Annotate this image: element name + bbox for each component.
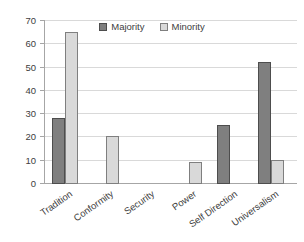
bar-majority-tradition — [52, 118, 65, 184]
y-axis-line — [44, 20, 45, 183]
bar-minority-power — [189, 162, 202, 184]
bar-majority-self-direction — [217, 125, 230, 184]
legend-item-majority: Majority — [99, 21, 144, 32]
legend-swatch-minority-icon — [160, 23, 168, 31]
bar-minority-tradition — [65, 32, 78, 184]
gridline-70 — [44, 20, 297, 21]
y-axis-label-50: 50 — [8, 62, 36, 73]
y-axis-label-10: 10 — [8, 155, 36, 166]
y-axis-label-60: 60 — [8, 38, 36, 49]
legend-label-majority: Majority — [111, 21, 144, 32]
legend-label-minority: Minority — [172, 21, 205, 32]
y-axis-label-20: 20 — [8, 131, 36, 142]
y-axis-label-40: 40 — [8, 85, 36, 96]
bar-minority-conformity — [106, 136, 119, 184]
y-axis-label-70: 70 — [8, 15, 36, 26]
chart-legend: MajorityMinority — [0, 21, 304, 32]
gridline-60 — [44, 43, 297, 44]
y-axis-label-30: 30 — [8, 108, 36, 119]
bar-majority-universalism — [258, 62, 271, 184]
y-axis-label-0: 0 — [8, 178, 36, 189]
legend-swatch-majority-icon — [99, 23, 107, 31]
bar-minority-universalism — [271, 160, 284, 184]
bar-chart: MajorityMinority 010203040506070Traditio… — [0, 0, 304, 242]
legend-item-minority: Minority — [160, 21, 205, 32]
x-axis-label-tradition: Tradition — [2, 188, 74, 242]
